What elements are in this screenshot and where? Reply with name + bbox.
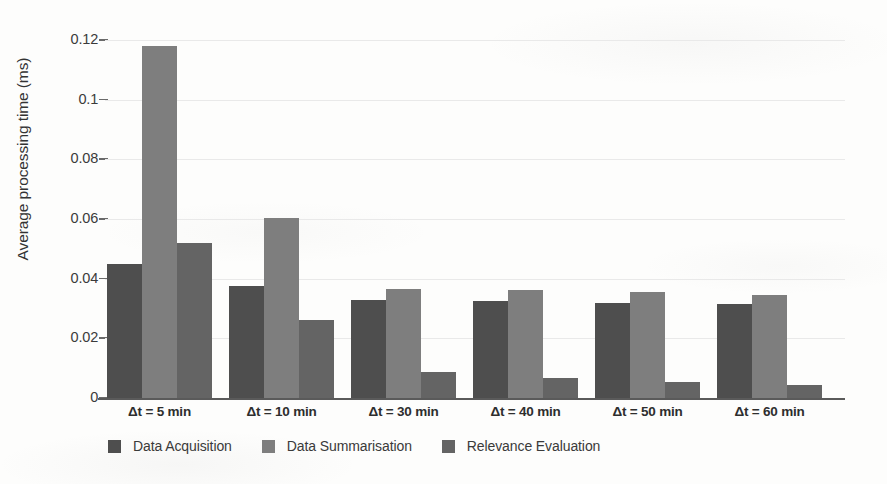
- y-axis-tick-label: 0.06: [36, 210, 98, 226]
- legend-label: Data Acquisition: [133, 438, 232, 454]
- bar: [299, 320, 334, 398]
- legend-swatch-icon: [442, 440, 455, 453]
- y-axis-tick-label: 0: [36, 389, 98, 405]
- bar: [508, 290, 543, 398]
- y-axis-tick-label: 0.02: [36, 329, 98, 345]
- bar: [665, 382, 700, 398]
- bar: [229, 286, 264, 398]
- bar: [177, 243, 212, 398]
- bar-group: [229, 40, 334, 398]
- bar: [630, 292, 665, 398]
- x-axis-category-label: Δt = 60 min: [690, 404, 850, 419]
- legend-swatch-icon: [262, 440, 275, 453]
- bar: [752, 295, 787, 398]
- bar-chart: Average processing time (ms) 0.120.10.08…: [0, 0, 887, 484]
- plot-area: [105, 40, 845, 398]
- y-axis-tick-label: 0.04: [36, 270, 98, 286]
- bar: [717, 304, 752, 398]
- x-axis-line: [98, 398, 845, 400]
- bar-group: [351, 40, 456, 398]
- bar: [142, 46, 177, 398]
- bar: [386, 289, 421, 398]
- y-axis-tick-label: 0.12: [36, 31, 98, 47]
- bar-group: [107, 40, 212, 398]
- bar: [351, 300, 386, 398]
- y-axis-tick-label: 0.1: [36, 91, 98, 107]
- bar: [421, 372, 456, 398]
- bar: [543, 378, 578, 398]
- bar: [473, 301, 508, 398]
- bar-group: [717, 40, 822, 398]
- legend-label: Data Summarisation: [287, 438, 412, 454]
- bar: [787, 385, 822, 398]
- legend-label: Relevance Evaluation: [467, 438, 600, 454]
- bar: [595, 303, 630, 398]
- chart-legend: Data AcquisitionData SummarisationReleva…: [108, 438, 630, 454]
- legend-item[interactable]: Relevance Evaluation: [442, 438, 600, 454]
- bar: [107, 264, 142, 398]
- legend-item[interactable]: Data Summarisation: [262, 438, 412, 454]
- bar: [264, 218, 299, 398]
- legend-swatch-icon: [108, 440, 121, 453]
- y-axis-title: Average processing time (ms): [14, 0, 32, 319]
- y-axis-tick-label: 0.08: [36, 150, 98, 166]
- legend-item[interactable]: Data Acquisition: [108, 438, 232, 454]
- bar-group: [473, 40, 578, 398]
- bar-group: [595, 40, 700, 398]
